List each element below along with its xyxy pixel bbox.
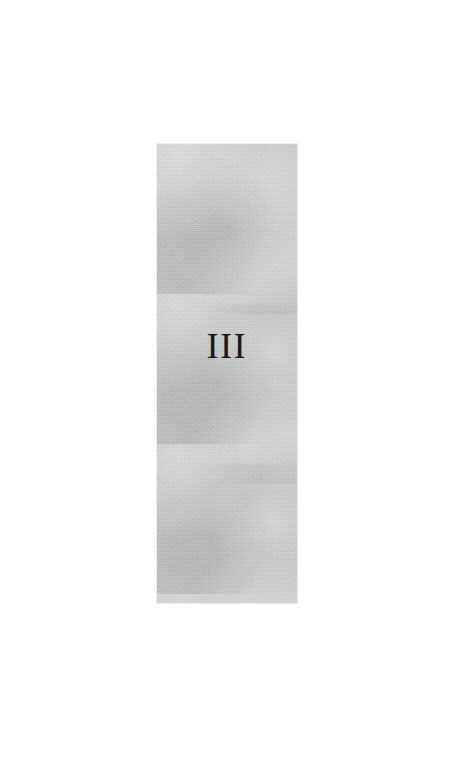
page-surface: III xyxy=(0,0,470,764)
paper-grain-overlay xyxy=(157,144,297,603)
part-number-block: III xyxy=(157,328,297,363)
part-divider-tint-panel: III xyxy=(157,144,297,603)
part-number-roman-numeral: III xyxy=(207,328,248,363)
